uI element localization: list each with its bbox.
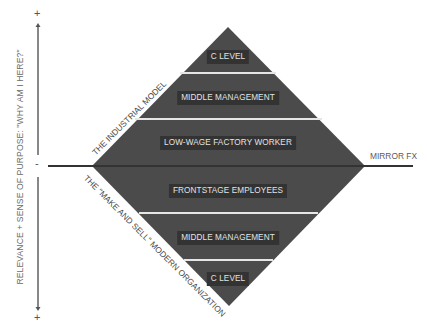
band-label-c-level-bottom: C LEVEL — [207, 272, 249, 286]
mirror-fx-label: MIRROR FX — [370, 151, 417, 161]
axis-plus-bottom: + — [34, 312, 40, 323]
band-label-low-wage-factory-worker: LOW-WAGE FACTORY WORKER — [160, 136, 296, 150]
axis-plus-top: + — [34, 8, 40, 19]
axis-minus: - — [35, 158, 39, 169]
axis-arrow-top-icon — [36, 23, 41, 27]
axis-label: RELEVANCE + SENSE OF PURPOSE: "WHY AM I … — [15, 49, 25, 284]
band-label-middle-management-top: MIDDLE MANAGEMENT — [177, 91, 279, 105]
band-label-c-level-top: C LEVEL — [207, 50, 249, 64]
band-label-middle-management-bottom: MIDDLE MANAGEMENT — [177, 231, 279, 245]
band-label-frontstage-employees: FRONTSTAGE EMPLOYEES — [169, 184, 287, 198]
diagram: + - + RELEVANCE + SENSE OF PURPOSE: "WHY… — [0, 0, 427, 332]
